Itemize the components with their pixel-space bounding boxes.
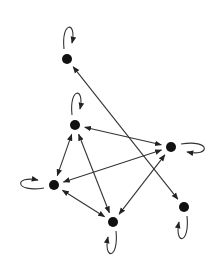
graph-diagram bbox=[0, 0, 221, 273]
self-loop-A bbox=[64, 27, 73, 49]
edge-A-F bbox=[73, 67, 178, 199]
node-B bbox=[70, 120, 80, 130]
node-C bbox=[166, 142, 176, 152]
node-E bbox=[108, 217, 118, 227]
edges-group bbox=[57, 67, 177, 217]
node-D bbox=[49, 180, 59, 190]
edge-B-D bbox=[57, 134, 71, 175]
graph-svg bbox=[0, 0, 221, 273]
self-loop-E bbox=[107, 231, 116, 254]
edge-B-E bbox=[79, 134, 110, 212]
self-loop-B bbox=[72, 93, 81, 115]
edge-C-E bbox=[119, 155, 165, 214]
self-loop-F bbox=[178, 216, 187, 239]
node-F bbox=[179, 202, 189, 212]
self-loop-C bbox=[181, 143, 204, 153]
self-loop-D bbox=[21, 179, 44, 189]
node-A bbox=[62, 54, 72, 64]
edge-C-D bbox=[64, 150, 162, 182]
edge-D-E bbox=[62, 190, 104, 216]
